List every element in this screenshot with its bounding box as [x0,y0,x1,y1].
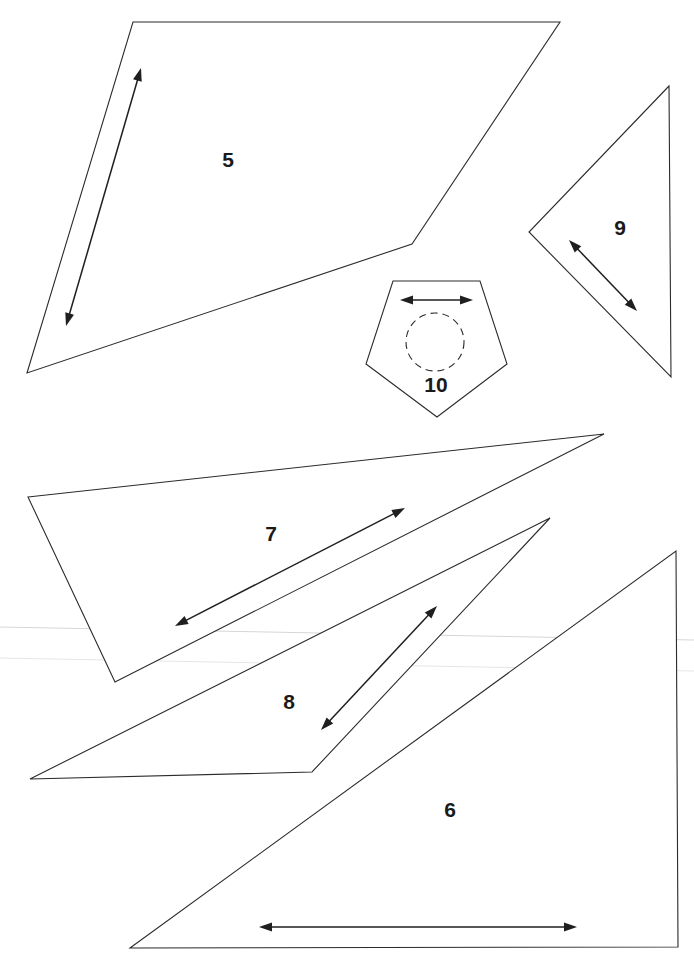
piece-number-label: 10 [424,373,447,396]
piece-outline-9[interactable] [529,86,671,377]
piece-number-label: 8 [283,690,295,713]
piece-outline-10[interactable] [366,281,507,417]
pattern-pieces: 5910786 [27,22,678,948]
piece-number-label: 6 [444,798,456,821]
pattern-piece-10[interactable]: 10 [366,281,507,417]
piece-number-label: 9 [614,216,626,239]
piece-number-label: 7 [265,522,277,545]
pattern-sheet: 5910786 [0,0,694,965]
pattern-piece-9[interactable]: 9 [529,86,671,377]
piece-number-label: 5 [222,148,234,171]
